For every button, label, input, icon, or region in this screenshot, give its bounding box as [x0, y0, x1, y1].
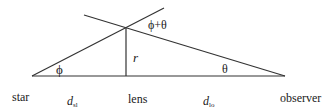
phi-label: ϕ — [56, 62, 63, 77]
star-label: star — [12, 90, 29, 104]
d-lo-label: dlo — [203, 94, 215, 109]
observer-ray — [84, 15, 285, 76]
lens-label: lens — [128, 92, 148, 106]
phi-plus-theta-label: ϕ+θ — [148, 18, 167, 32]
star-ray — [32, 8, 164, 76]
r-label: r — [133, 50, 139, 65]
observer-label: observer — [280, 91, 321, 105]
lensing-diagram: ϕ θ ϕ+θ r star lens observer dsl dlo — [0, 0, 331, 111]
d-sl-label: dsl — [67, 94, 78, 109]
theta-label: θ — [222, 62, 228, 76]
d-sl-sub: sl — [73, 101, 78, 109]
d-lo-sub: lo — [209, 101, 215, 109]
